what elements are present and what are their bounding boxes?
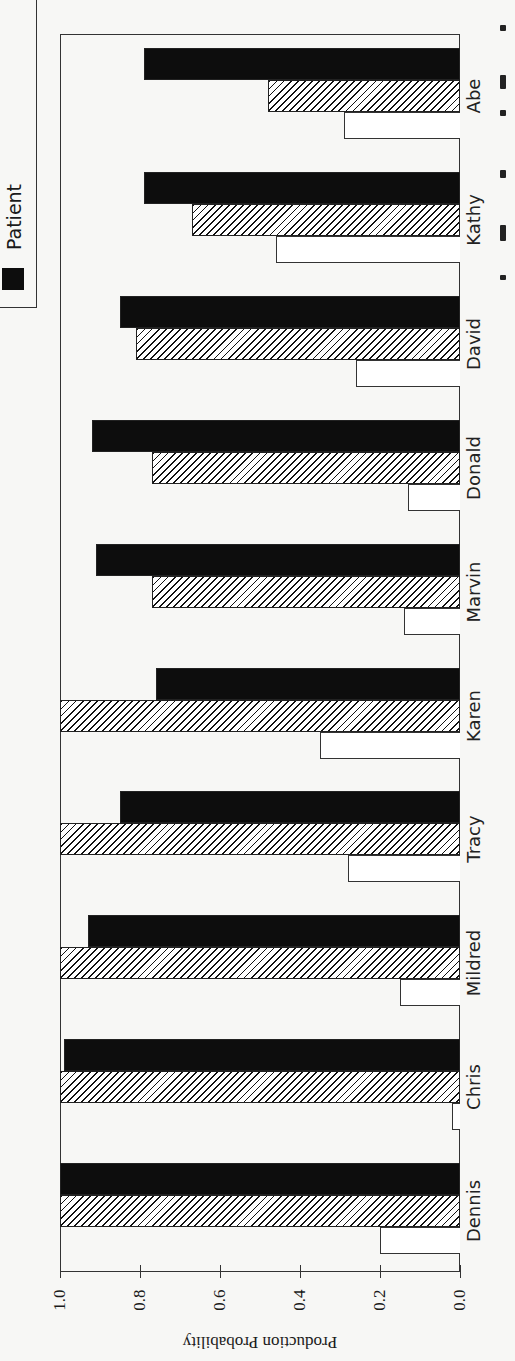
bar-tracy-hatched [60, 823, 460, 855]
value-axis-line [60, 1271, 461, 1272]
bar-donald-white [408, 484, 460, 511]
bar-marvin-white [404, 608, 460, 635]
bar-karen-hatched [60, 700, 460, 732]
tick-label: 0.0 [450, 1280, 470, 1320]
bar-tracy-patient [120, 791, 460, 823]
bar-kathy-patient [144, 172, 460, 204]
bar-donald-hatched [152, 452, 460, 484]
value-axis-title: Production Probability [110, 1330, 410, 1352]
tick-mark [300, 1265, 301, 1278]
bar-mildred-patient [88, 915, 460, 947]
bar-marvin-patient [96, 544, 460, 576]
tick-mark [140, 1265, 141, 1278]
legend: Patient [0, 0, 37, 308]
bar-chris-white [452, 1103, 460, 1130]
bar-david-hatched [136, 328, 460, 360]
bar-dennis-white [380, 1227, 460, 1254]
bar-david-white [356, 360, 460, 387]
bar-mildred-white [400, 979, 460, 1006]
category-label-mildred: Mildred [463, 903, 487, 1023]
category-label-dennis: Dennis [463, 1151, 487, 1271]
tick-mark [380, 1265, 381, 1278]
category-label-abe: Abe [463, 36, 487, 156]
bar-karen-patient [156, 668, 460, 700]
bar-dennis-patient [60, 1163, 460, 1195]
bar-abe-hatched [268, 80, 460, 112]
bar-david-patient [120, 296, 460, 328]
bar-chris-patient [64, 1039, 460, 1071]
tick-label: 1.0 [50, 1280, 70, 1320]
bar-kathy-hatched [192, 204, 460, 236]
bar-mildred-hatched [60, 947, 460, 979]
bar-karen-white [320, 732, 460, 759]
legend-swatch-patient [2, 268, 24, 290]
tick-label: 0.8 [130, 1280, 150, 1320]
category-label-kathy: Kathy [463, 160, 487, 280]
bar-dennis-hatched [60, 1195, 460, 1227]
bar-tracy-white [348, 855, 460, 882]
category-label-david: David [463, 284, 487, 404]
bar-kathy-white [276, 236, 460, 263]
category-label-donald: Donald [463, 408, 487, 528]
bar-abe-patient [144, 48, 460, 80]
bar-chris-hatched [60, 1071, 460, 1103]
bar-abe-white [344, 112, 460, 139]
tick-mark [460, 1265, 461, 1278]
bar-marvin-hatched [152, 576, 460, 608]
tick-mark [60, 1265, 61, 1278]
tick-label: 0.2 [370, 1280, 390, 1320]
category-label-karen: Karen [463, 656, 487, 776]
cropped-caption-fragment [497, 20, 511, 720]
category-label-tracy: Tracy [463, 779, 487, 899]
tick-label: 0.6 [210, 1280, 230, 1320]
bar-donald-patient [92, 420, 460, 452]
legend-label-patient: Patient [3, 172, 27, 262]
tick-label: 0.4 [290, 1280, 310, 1320]
category-label-marvin: Marvin [463, 532, 487, 652]
category-label-chris: Chris [463, 1027, 487, 1147]
tick-mark [220, 1265, 221, 1278]
